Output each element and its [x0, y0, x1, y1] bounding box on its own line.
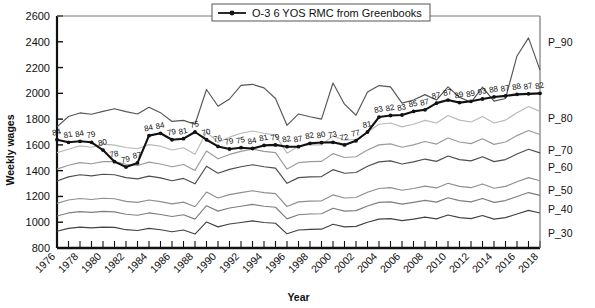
percentile-label-p_50: P_50	[548, 184, 573, 196]
data-point-marker	[113, 160, 117, 164]
y-tick-label: 1600	[26, 139, 50, 151]
data-point-marker	[343, 143, 347, 147]
data-point-marker	[124, 165, 128, 169]
data-point-marker	[515, 92, 519, 96]
data-point-marker	[538, 91, 542, 95]
data-point-marker	[354, 139, 358, 143]
data-point-marker	[67, 140, 71, 144]
data-point-marker	[285, 145, 289, 149]
data-point-marker	[469, 99, 473, 103]
data-point-marker	[251, 147, 255, 151]
data-point-marker	[193, 130, 197, 134]
data-point-marker	[423, 108, 427, 112]
data-point-marker	[170, 138, 174, 142]
data-point-marker	[435, 101, 439, 105]
data-point-marker	[320, 141, 324, 145]
data-point-marker	[228, 147, 232, 151]
data-point-marker	[446, 98, 450, 102]
data-point-marker	[262, 144, 266, 148]
wage-percentile-line-chart: Weekly wages 800100012001400160018002000…	[0, 0, 595, 308]
data-point-marker	[504, 94, 508, 98]
y-tick-label: 2600	[26, 10, 50, 22]
y-tick-label: 1400	[26, 165, 50, 177]
y-tick-label: 1200	[26, 190, 50, 202]
data-point-marker	[216, 145, 220, 149]
y-tick-label: 1800	[26, 113, 50, 125]
data-point-marker	[481, 97, 485, 101]
data-point-marker	[458, 101, 462, 105]
legend-entry-label: O-3 6 YOS RMC from Greenbooks	[252, 7, 422, 19]
data-point-marker	[308, 141, 312, 145]
legend-marker-icon	[230, 11, 235, 16]
legend: O-3 6 YOS RMC from Greenbooks	[212, 4, 430, 21]
percentile-label-p_60: P_60	[548, 161, 573, 173]
data-point-marker	[274, 143, 278, 147]
percentile-label-p_90: P_90	[548, 36, 573, 48]
x-axis-title: Year	[287, 291, 309, 303]
data-point-marker	[412, 109, 416, 113]
y-axis-title: Weekly wages	[4, 114, 16, 185]
data-point-marker	[136, 161, 140, 165]
percentile-label-p_70: P_70	[548, 144, 573, 156]
data-point-marker	[205, 138, 209, 142]
data-point-marker	[492, 95, 496, 99]
percentile-label-p_30: P_30	[548, 227, 573, 239]
data-point-marker	[159, 131, 163, 135]
data-point-marker	[182, 137, 186, 141]
data-point-marker	[400, 113, 404, 117]
data-point-marker	[297, 145, 301, 149]
percentile-label-p_80: P_80	[548, 112, 573, 124]
data-point-marker	[55, 138, 59, 142]
y-tick-label: 2200	[26, 62, 50, 74]
data-point-marker	[90, 140, 94, 144]
data-point-marker	[389, 114, 393, 118]
y-tick-label: 2000	[26, 87, 50, 99]
data-point-marker	[366, 130, 370, 134]
data-point-marker	[239, 146, 243, 150]
data-point-marker	[147, 134, 151, 138]
data-point-marker	[377, 115, 381, 119]
data-point-marker	[527, 92, 531, 96]
data-point-marker	[331, 140, 335, 144]
y-tick-label: 1000	[26, 216, 50, 228]
chart-figure: Weekly wages 800100012001400160018002000…	[0, 0, 595, 308]
data-point-marker	[101, 148, 105, 152]
data-point-marker	[78, 139, 82, 143]
y-tick-label: 2400	[26, 36, 50, 48]
percentile-label-p_40: P_40	[548, 203, 573, 215]
